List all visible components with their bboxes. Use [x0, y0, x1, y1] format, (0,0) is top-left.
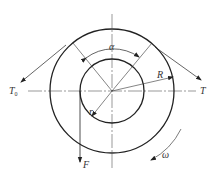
centerlines: [28, 14, 196, 170]
T-label: T: [200, 85, 207, 96]
alpha-label: α: [109, 41, 115, 52]
R-label: R: [156, 69, 163, 80]
r-label: r: [89, 106, 93, 117]
radius-line-right: [112, 43, 152, 91]
T0-subscript: 0: [15, 91, 18, 97]
r-dimension-arrow: [92, 91, 112, 116]
T0-label: T0: [9, 85, 18, 97]
R-dimension-arrow: [112, 77, 173, 91]
omega-label: ω: [162, 149, 169, 160]
tangent-T0-arrow: [21, 45, 66, 82]
F-label: F: [82, 159, 90, 170]
radius-line-left: [73, 43, 112, 91]
pulley-diagram: α R r T T0 F ω: [0, 0, 216, 177]
